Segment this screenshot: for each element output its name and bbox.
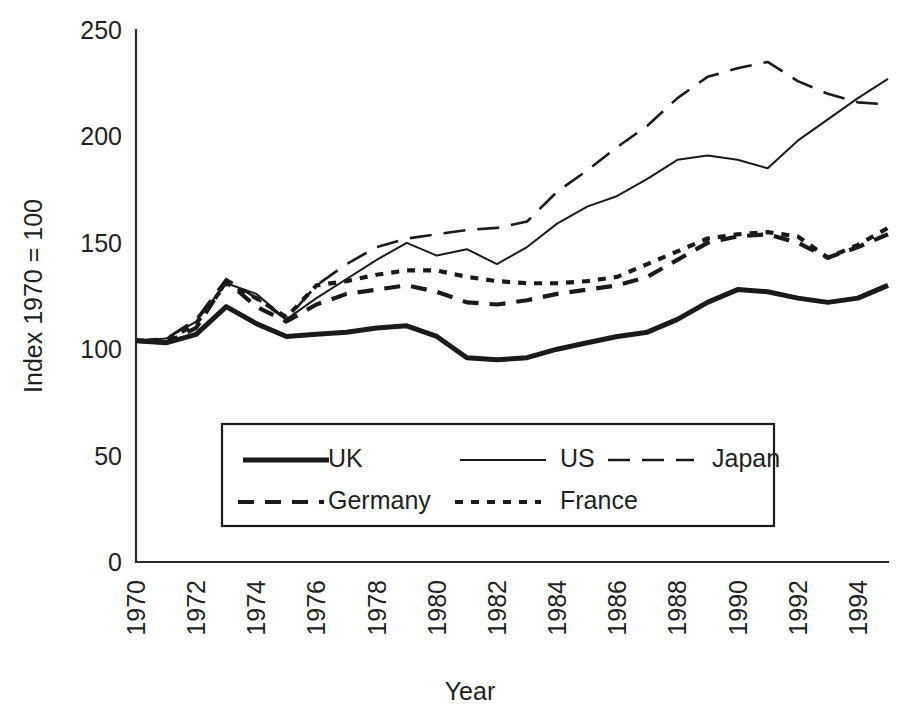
x-tick-label: 1984 xyxy=(543,580,571,636)
legend-border xyxy=(222,424,774,526)
x-tick-label: 1974 xyxy=(242,580,270,636)
chart-canvas: 050100150200250 197019721974197619781980… xyxy=(0,0,910,724)
line-chart: 050100150200250 197019721974197619781980… xyxy=(0,0,910,724)
series-line-germany xyxy=(136,234,888,343)
x-tick-label: 1994 xyxy=(844,580,872,636)
x-tick-label: 1978 xyxy=(363,580,391,636)
y-tick-label: 50 xyxy=(94,442,122,470)
x-tick-label: 1972 xyxy=(182,580,210,636)
legend-label-germany: Germany xyxy=(328,486,431,514)
legend-label-us: US xyxy=(560,444,595,472)
legend-label-uk: UK xyxy=(328,444,363,472)
y-tick-label: 200 xyxy=(80,122,122,150)
x-tick-label: 1980 xyxy=(423,580,451,636)
y-tick-label: 0 xyxy=(108,548,122,576)
y-tick-label: 250 xyxy=(80,16,122,44)
y-axis-title: Index 1970 = 100 xyxy=(19,199,47,393)
x-tick-label: 1988 xyxy=(663,580,691,636)
y-tick-label: 150 xyxy=(80,229,122,257)
legend-label-japan: Japan xyxy=(712,444,780,472)
series-paths xyxy=(136,62,888,360)
series-line-uk xyxy=(136,285,888,359)
x-tick-label: 1990 xyxy=(724,580,752,636)
x-tick-label: 1992 xyxy=(784,580,812,636)
y-tick-labels: 050100150200250 xyxy=(80,16,122,576)
x-tick-label: 1970 xyxy=(122,580,150,636)
legend-label-france: France xyxy=(560,486,638,514)
x-tick-label: 1976 xyxy=(302,580,330,636)
x-tick-labels: 1970197219741976197819801982198419861988… xyxy=(122,580,872,636)
x-axis-title: Year xyxy=(445,677,496,705)
chart-legend: UKUSJapanGermanyFrance xyxy=(222,424,780,526)
x-tick-label: 1982 xyxy=(483,580,511,636)
x-tick-label: 1986 xyxy=(603,580,631,636)
y-tick-label: 100 xyxy=(80,335,122,363)
series-line-france xyxy=(136,228,888,341)
